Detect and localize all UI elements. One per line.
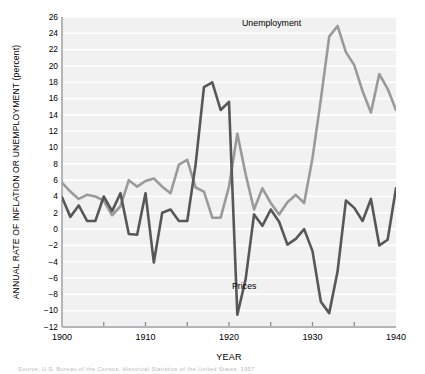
y-tick-label: 6 [32,176,58,184]
y-tick-label: 16 [32,94,58,102]
y-tick-label: 18 [32,78,58,86]
y-tick-label: 24 [32,29,58,37]
y-tick-label: 14 [32,111,58,119]
series-label-prices: Prices [232,281,256,291]
y-tick-label: 26 [32,13,58,21]
plot-canvas [0,0,425,374]
y-tick-label: −8 [32,290,58,298]
y-tick-label: 4 [32,192,58,200]
y-tick-label: −12 [32,323,58,331]
y-tick-label: 0 [32,225,58,233]
y-tick-label: −6 [32,274,58,282]
x-tick-label: 1930 [293,333,333,342]
y-tick-label: −4 [32,258,58,266]
y-tick-label: 12 [32,127,58,135]
plot-background [62,17,396,327]
y-tick-label: 8 [32,160,58,168]
x-tick-label: 1920 [209,333,249,342]
y-tick-label: 2 [32,209,58,217]
y-tick-label: −2 [32,241,58,249]
x-tick-label: 1910 [126,333,166,342]
y-axis-label: ANNUAL RATE OF INFLATION OR UNEMPLOYMENT… [11,17,21,327]
y-tick-label: −10 [32,306,58,314]
x-tick-label: 1900 [42,333,82,342]
series-label-unemployment: Unemployment [242,18,301,28]
y-axis-ticks: −12−10−8−6−4−202468101214161820222426 [30,0,58,374]
y-tick-label: 10 [32,143,58,151]
x-axis-label: YEAR [62,352,396,362]
x-tick-label: 1940 [376,333,416,342]
y-tick-label: 20 [32,62,58,70]
source-caption: Source: U.S. Bureau of the Census, Histo… [18,366,255,372]
chart-figure: ANNUAL RATE OF INFLATION OR UNEMPLOYMENT… [0,0,425,374]
y-tick-label: 22 [32,45,58,53]
